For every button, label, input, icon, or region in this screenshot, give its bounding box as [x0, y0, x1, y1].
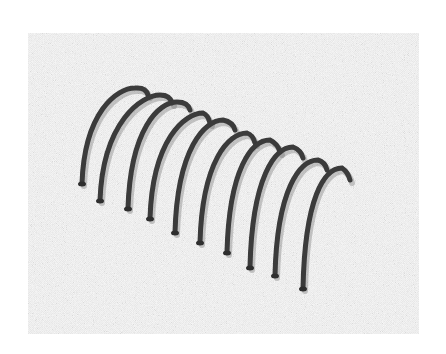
coil-foot [196, 241, 204, 246]
coil-foot [124, 207, 132, 212]
coil-foot [271, 274, 279, 279]
coil-foot [171, 231, 179, 236]
coil-photo-svg [28, 33, 419, 334]
coil-foot [299, 287, 307, 292]
coil-foot [78, 182, 86, 187]
coil-foot [96, 199, 104, 204]
coil-foot [223, 251, 231, 256]
coil-foot [146, 217, 154, 222]
coil-foot [246, 266, 254, 271]
coil-photograph: Grayscale halftone photograph of a helic… [28, 33, 419, 334]
